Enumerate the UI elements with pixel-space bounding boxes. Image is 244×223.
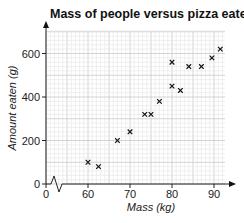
x-axis-arrow-icon (229, 181, 236, 187)
x-tick-label: 60 (82, 188, 94, 200)
y-axis-label: Amount eaten (g) (6, 65, 18, 151)
scatter-chart: Mass of people versus pizza eaten 020040… (0, 0, 244, 223)
x-tick-label: 80 (166, 188, 178, 200)
chart-title: Mass of people versus pizza eaten (50, 7, 244, 21)
x-ticks: 060708090 (43, 184, 220, 200)
y-tick-label: 0 (34, 178, 40, 190)
x-axis-label: Mass (kg) (127, 201, 176, 213)
y-axis-arrow-icon (43, 21, 49, 28)
y-ticks: 0200400600 (22, 48, 46, 191)
x-tick-label: 0 (43, 188, 49, 200)
x-tick-label: 70 (124, 188, 136, 200)
grid (46, 31, 225, 184)
y-tick-label: 600 (22, 48, 40, 60)
x-axis-line-with-break (46, 176, 230, 192)
y-tick-label: 200 (22, 135, 40, 147)
x-tick-label: 90 (208, 188, 220, 200)
data-points (86, 47, 223, 169)
y-tick-label: 400 (22, 91, 40, 103)
